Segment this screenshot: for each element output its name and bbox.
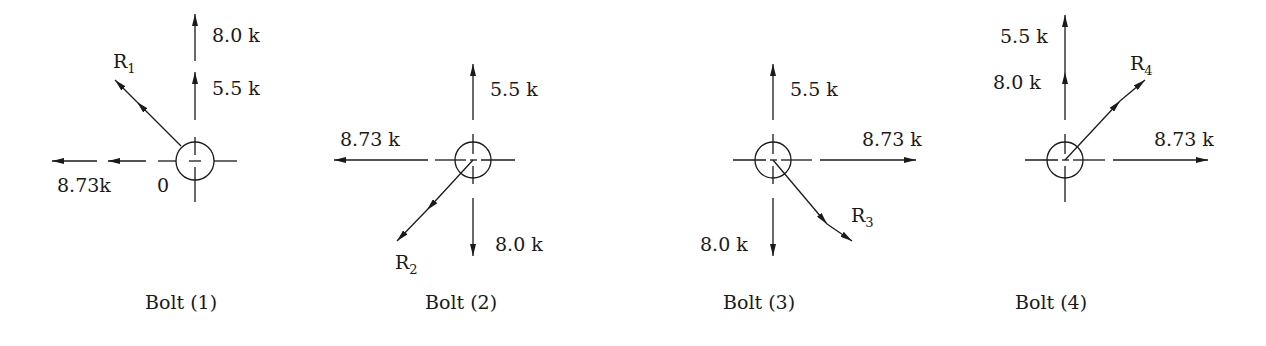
bolt-4-resultant-arrow xyxy=(1120,80,1145,101)
bolt-1-force-label: 5.5 k xyxy=(212,79,260,98)
resultant-letter: R xyxy=(113,50,127,72)
bolt-2-force-label: 5.5 k xyxy=(490,80,538,99)
bolt-1-force-label: 8.73k xyxy=(57,176,111,195)
resultant-letter: R xyxy=(395,251,409,273)
bolt-3-resultant-label: R3 xyxy=(851,206,874,229)
bolt-4-force-label: 8.0 k xyxy=(993,73,1041,92)
bolt-3-force-label: 8.73 k xyxy=(862,130,922,149)
bolt-4-force-label: 8.73 k xyxy=(1154,130,1214,149)
resultant-subscript: 2 xyxy=(409,262,417,277)
bolt-4-resultant-label: R4 xyxy=(1130,54,1153,77)
bolt-4-caption: Bolt (4) xyxy=(1015,291,1087,313)
resultant-subscript: 3 xyxy=(865,215,873,230)
bolt-2-force-label: 8.73 k xyxy=(340,130,400,149)
bolt-1-caption: Bolt (1) xyxy=(145,291,217,313)
bolt-1-force-label: 8.0 k xyxy=(212,26,260,45)
bolt-1-resultant-label: R1 xyxy=(113,52,136,75)
bolt-2-force-label: 8.0 k xyxy=(495,235,543,254)
resultant-subscript: 1 xyxy=(127,61,135,76)
bolt-3-force-label: 8.0 k xyxy=(700,235,748,254)
bolt-4-figure xyxy=(1025,15,1208,202)
bolt-1-resultant-arrow xyxy=(115,80,137,102)
resultant-letter: R xyxy=(851,204,865,226)
bolt-3-force-label: 5.5 k xyxy=(790,80,838,99)
bolt-2-resultant-arrow xyxy=(397,210,427,241)
bolt-2-caption: Bolt (2) xyxy=(425,291,497,313)
bolt-2-resultant-label: R2 xyxy=(395,253,418,276)
bolt-3-resultant-arrow xyxy=(827,224,852,241)
bolt-1-force-label: 0 xyxy=(157,176,169,195)
bolt-4-force-label: 5.5 k xyxy=(1000,27,1048,46)
resultant-letter: R xyxy=(1130,52,1144,74)
bolt-2-figure xyxy=(334,64,515,256)
bolt-3-caption: Bolt (3) xyxy=(723,291,795,313)
resultant-subscript: 4 xyxy=(1144,63,1152,78)
